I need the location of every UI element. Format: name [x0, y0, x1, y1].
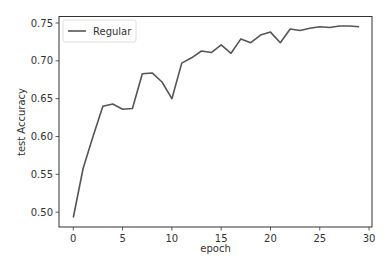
plot-area	[73, 26, 359, 217]
y-tick-label: 0.60	[31, 131, 53, 142]
y-tick-label: 0.70	[31, 55, 53, 66]
y-axis-label: test Accuracy	[16, 88, 27, 156]
y-tick-label: 0.50	[31, 207, 53, 218]
x-tick-label: 0	[70, 233, 76, 244]
series-line-regular	[73, 26, 359, 217]
x-axis-ticks: 051015202530	[70, 227, 375, 244]
y-tick-label: 0.55	[31, 169, 53, 180]
x-tick-label: 20	[264, 233, 277, 244]
line-chart: 051015202530 0.500.550.600.650.700.75 ep…	[0, 0, 392, 266]
y-tick-label: 0.65	[31, 93, 53, 104]
x-tick-label: 25	[313, 233, 326, 244]
y-tick-label: 0.75	[31, 18, 53, 29]
x-axis-label: epoch	[200, 243, 230, 254]
legend-label-regular: Regular	[93, 26, 132, 37]
x-tick-label: 10	[166, 233, 179, 244]
y-axis-ticks: 0.500.550.600.650.700.75	[31, 18, 59, 218]
x-tick-label: 5	[119, 233, 125, 244]
axes-frame	[59, 17, 372, 228]
x-tick-label: 30	[363, 233, 376, 244]
legend: Regular	[63, 20, 136, 42]
